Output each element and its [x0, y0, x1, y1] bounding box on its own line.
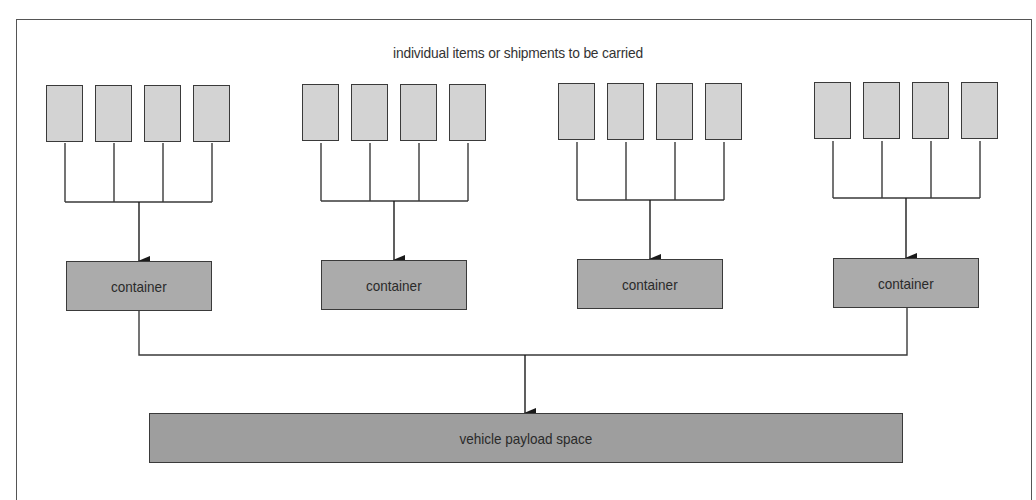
shipment-item — [193, 85, 230, 142]
shipment-item — [558, 83, 595, 140]
shipment-item — [449, 84, 486, 141]
shipment-item — [912, 82, 949, 139]
shipment-item — [814, 82, 851, 139]
shipment-item — [400, 84, 437, 141]
shipment-item — [961, 82, 998, 139]
payload-label: vehicle payload space — [460, 430, 593, 447]
container-box-2: container — [321, 260, 467, 310]
shipment-item — [705, 83, 742, 140]
vehicle-payload-box: vehicle payload space — [149, 413, 903, 463]
container-box-3: container — [577, 259, 723, 309]
shipment-item — [95, 85, 132, 142]
shipment-item — [351, 84, 388, 141]
container-label: container — [622, 276, 678, 293]
shipment-item — [144, 85, 181, 142]
shipment-item — [607, 83, 644, 140]
shipment-item — [656, 83, 693, 140]
container-box-1: container — [66, 261, 212, 311]
shipment-item — [302, 84, 339, 141]
container-label: container — [111, 278, 167, 295]
container-label: container — [878, 275, 934, 292]
container-box-4: container — [833, 258, 979, 308]
shipment-item — [46, 85, 83, 142]
container-label: container — [366, 277, 422, 294]
shipment-item — [863, 82, 900, 139]
